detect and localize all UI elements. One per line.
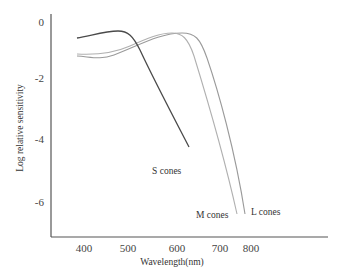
- y-tick-minus2: -2: [35, 72, 44, 84]
- y-tick-minus4: -4: [35, 133, 45, 145]
- label-s-cones: S cones: [152, 166, 182, 176]
- series-s-cones: [77, 31, 189, 147]
- chart: 0 -2 -4 -6 400 500 600 700 800 Wavelengt…: [0, 0, 339, 276]
- x-tick-800: 800: [243, 242, 260, 254]
- x-tick-400: 400: [76, 242, 93, 254]
- y-tick-0: 0: [39, 16, 45, 28]
- x-tick-600: 600: [169, 242, 186, 254]
- y-axis-label: Log relative sensitivity: [15, 84, 25, 172]
- label-l-cones: L cones: [251, 207, 281, 217]
- series-l-cones: [77, 33, 245, 214]
- label-m-cones: M cones: [196, 210, 229, 220]
- series-m-cones: [77, 33, 237, 214]
- x-axis-label: Wavelength(nm): [140, 257, 204, 268]
- y-tick-minus6: -6: [35, 196, 45, 208]
- x-tick-500: 500: [120, 242, 137, 254]
- x-tick-700: 700: [212, 242, 229, 254]
